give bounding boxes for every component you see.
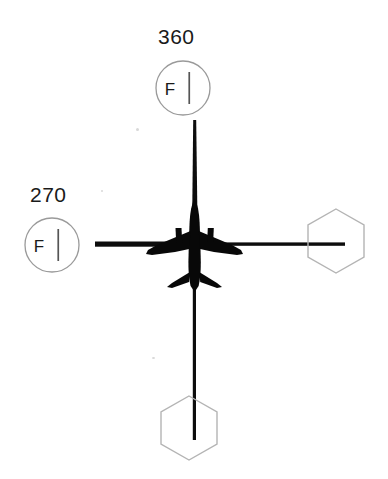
fix-label-west: 270	[30, 184, 67, 205]
fix-symbol-west[interactable]: F	[25, 218, 79, 272]
waypoint-symbol-east[interactable]	[308, 209, 364, 273]
course-crosshair	[95, 120, 345, 440]
navigation-diagram: F F	[0, 0, 388, 479]
fix-circle-west-letter: F	[34, 237, 44, 256]
scan-speck	[152, 357, 155, 359]
fix-circle-north-tick	[188, 72, 190, 104]
aircraft-symbol	[146, 198, 243, 292]
fix-circle-north-letter: F	[165, 80, 175, 99]
waypoint-hexagon-south	[161, 396, 217, 460]
fix-circle-west-tick	[57, 229, 59, 261]
scan-speck	[136, 128, 139, 131]
fix-symbol-north[interactable]: F	[156, 61, 210, 115]
scan-speck	[101, 190, 103, 192]
fix-label-north: 360	[158, 26, 195, 47]
navigation-diagram-canvas: F F 360 270	[0, 0, 388, 479]
waypoint-hexagon-east	[308, 209, 364, 273]
course-line-south	[193, 276, 196, 440]
waypoint-symbol-south[interactable]	[161, 396, 217, 460]
